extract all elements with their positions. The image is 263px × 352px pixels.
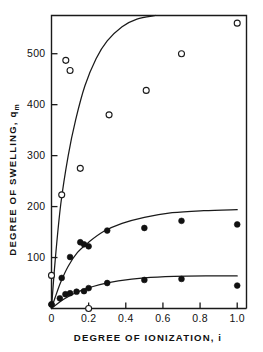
data-point-open [234,20,240,26]
data-point-open [77,165,83,171]
data-point-open [63,57,69,63]
y-axis-tick-labels: 100200300400500 [27,47,45,263]
y-tick-label: 400 [27,98,45,110]
data-point-filled [141,225,147,231]
x-tick-label: 0.2 [81,312,97,324]
data-point-filled [234,283,240,289]
data-point-open [86,306,92,312]
data-point-filled [67,254,73,260]
x-tick-label: 0 [48,312,54,324]
swelling-vs-ionization-chart: 100200300400500 00.20.40.60.81.0 DEGREE … [0,0,263,352]
data-point-filled [234,222,240,228]
y-axis-title-subscript: m [13,104,20,110]
data-point-filled [179,276,185,282]
curve-middle [52,210,238,309]
data-point-open [59,192,65,198]
data-point-filled [104,280,110,286]
x-axis-ticks [52,303,238,309]
data-point-filled [141,277,147,283]
data-point-filled [179,218,185,224]
fitted-curves [52,16,238,309]
data-point-open [106,112,112,118]
y-tick-label: 200 [27,200,45,212]
y-axis-title: DEGREE OF SWELLING, qm [7,104,20,255]
data-point-filled [59,275,65,281]
x-axis-title: DEGREE OF IONIZATION, i [74,332,222,343]
data-point-filled [74,289,80,295]
x-tick-label: 0.6 [155,312,171,324]
x-tick-label: 0.4 [118,312,134,324]
y-tick-label: 100 [27,251,45,263]
figure-container: 100200300400500 00.20.40.60.81.0 DEGREE … [0,0,263,352]
data-point-filled [104,228,110,234]
data-point-filled [67,290,73,296]
data-point-filled [86,243,92,249]
y-axis-title-group: DEGREE OF SWELLING, qm [7,104,20,255]
data-point-filled [49,302,55,308]
y-tick-label: 500 [27,47,45,59]
data-point-open [143,87,149,93]
data-point-filled [57,295,63,301]
plot-frame [52,16,247,309]
data-point-filled [86,285,92,291]
data-points [49,20,241,311]
x-axis-tick-labels: 00.20.40.60.81.0 [48,312,245,324]
data-point-open [179,51,185,57]
x-tick-label: 0.8 [192,312,208,324]
data-point-open [67,68,73,74]
y-axis-ticks [52,54,58,258]
y-tick-label: 300 [27,149,45,161]
data-point-open [49,272,55,278]
x-tick-label: 1.0 [229,312,245,324]
